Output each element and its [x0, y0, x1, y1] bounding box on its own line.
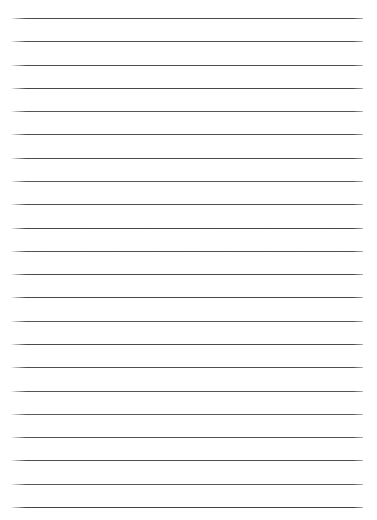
rule-line: [12, 507, 363, 508]
rule-line: [12, 65, 363, 66]
rule-line: [12, 274, 363, 275]
rule-line: [12, 204, 363, 205]
rule-line: [12, 134, 363, 135]
rule-line: [12, 41, 363, 42]
rule-line: [12, 414, 363, 415]
rule-line: [12, 484, 363, 485]
rule-line: [12, 321, 363, 322]
rule-line: [12, 460, 363, 461]
rule-line: [12, 391, 363, 392]
rule-line: [12, 251, 363, 252]
rule-line: [12, 18, 363, 19]
rule-line: [12, 111, 363, 112]
rule-line: [12, 297, 363, 298]
rule-line: [12, 181, 363, 182]
rule-line: [12, 88, 363, 89]
rule-line: [12, 367, 363, 368]
rule-line: [12, 344, 363, 345]
lined-paper-sheet: [0, 0, 377, 520]
rule-line: [12, 158, 363, 159]
rule-line: [12, 228, 363, 229]
rule-line: [12, 437, 363, 438]
